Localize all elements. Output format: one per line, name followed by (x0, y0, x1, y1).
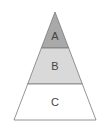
layer-c-label: C (51, 96, 59, 108)
layer-a-label: A (51, 30, 59, 42)
pyramid-diagram: A B C (0, 0, 107, 128)
layer-b-label: B (51, 60, 58, 72)
